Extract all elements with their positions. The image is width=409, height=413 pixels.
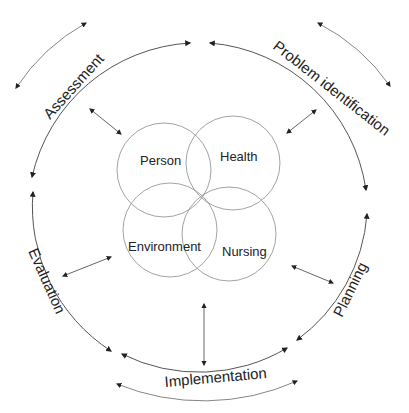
label-person: Person [140, 153, 181, 168]
arrow-planning-nursing [292, 266, 333, 283]
nursing-process-diagram: Person Health Environment Nursing Assess… [0, 0, 409, 413]
label-evaluation: Evaluation [25, 245, 69, 316]
label-assessment: Assessment [40, 49, 108, 122]
label-planning: Planning [329, 259, 370, 319]
label-environment: Environment [128, 239, 201, 254]
arrow-assessment-person [90, 109, 121, 134]
arrow-problem-health [287, 110, 316, 133]
cycle-arcs [32, 43, 367, 372]
arc-problem-identification [210, 43, 366, 190]
arrow-evaluation-environment [63, 257, 111, 276]
circle-nursing [182, 187, 276, 281]
label-nursing: Nursing [222, 244, 267, 259]
inner-arrows [63, 109, 333, 365]
label-problem-identification: Problem identification [270, 37, 393, 139]
label-implementation: Implementation [164, 364, 268, 390]
label-health: Health [220, 149, 258, 164]
